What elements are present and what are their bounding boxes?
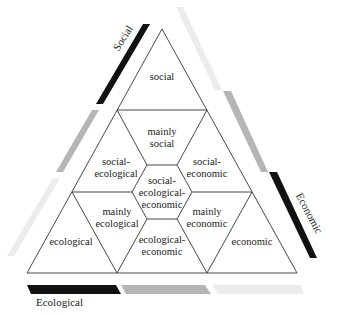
region-ecological-economic-l2: economic xyxy=(142,246,183,257)
economic-bar-light xyxy=(176,7,222,90)
economic-bar-mid xyxy=(223,91,268,172)
region-mainly-social-l1: mainly xyxy=(147,126,177,137)
ecological-bar-mid xyxy=(121,285,211,294)
ecological-bar-dark xyxy=(27,285,121,294)
ecological-gradient-bar xyxy=(27,285,304,294)
region-economic: economic xyxy=(232,236,273,247)
region-social-economic-l2: economic xyxy=(187,168,228,179)
region-center-l1: social- xyxy=(148,175,176,186)
region-ecological-economic-l1: ecological- xyxy=(139,234,186,245)
region-social-ecological-l1: social- xyxy=(102,156,130,167)
region-mainly-economic-l1: mainly xyxy=(192,206,222,217)
region-mainly-ecological-l1: mainly xyxy=(102,206,132,217)
region-social-economic-l1: social- xyxy=(193,156,221,167)
region-mainly-economic-l2: economic xyxy=(187,218,228,229)
region-mainly-social-l2: social xyxy=(150,138,175,149)
axis-label-ecological: Ecological xyxy=(36,296,83,308)
social-bar-mid xyxy=(56,110,99,172)
triangle-diagram: social mainly social social- ecological … xyxy=(0,0,338,315)
region-center-l3: economic xyxy=(142,199,183,210)
region-mainly-ecological-l2: ecological xyxy=(95,218,138,229)
region-ecological: ecological xyxy=(49,236,92,247)
region-center-l2: ecological- xyxy=(139,187,186,198)
region-social-ecological-l2: ecological xyxy=(94,168,137,179)
region-social: social xyxy=(150,71,175,82)
ecological-bar-light xyxy=(212,285,304,294)
